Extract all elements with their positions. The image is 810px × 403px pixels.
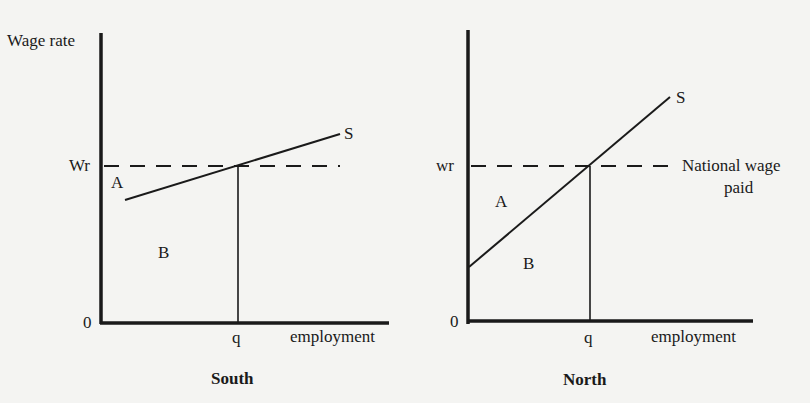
- north-wage-line-label-2: paid: [724, 179, 753, 196]
- south-y-axis-label: Wage rate: [7, 32, 75, 49]
- north-q-label: q: [584, 329, 593, 346]
- south-panel: [100, 33, 389, 324]
- north-wage-label: wr: [436, 157, 454, 174]
- south-x-axis-label: employment: [290, 328, 375, 345]
- north-panel: [467, 30, 753, 324]
- north-wage-line-label-1: National wage: [682, 157, 781, 174]
- south-caption: South: [211, 370, 254, 387]
- north-origin-label: 0: [450, 313, 459, 330]
- north-area-b-label: B: [523, 255, 534, 272]
- south-wage-label: Wr: [69, 157, 90, 174]
- south-curve-label: S: [344, 125, 353, 142]
- north-supply-curve: [469, 97, 670, 267]
- south-origin-label: 0: [83, 314, 92, 331]
- north-curve-label: S: [676, 89, 685, 106]
- north-caption: North: [563, 371, 606, 388]
- south-area-a-label: A: [111, 174, 123, 191]
- south-area-b-label: B: [158, 244, 169, 261]
- north-area-a-label: A: [495, 193, 507, 210]
- north-x-axis-label: employment: [651, 328, 736, 345]
- south-q-label: q: [232, 329, 241, 346]
